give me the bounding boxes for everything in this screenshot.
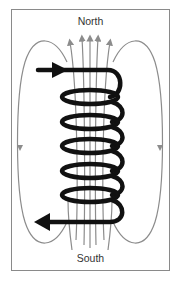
current-out-arrow-icon	[34, 213, 50, 231]
current-in-arrow-icon	[52, 62, 68, 78]
solenoid-diagram	[0, 0, 181, 283]
coil	[38, 70, 123, 222]
